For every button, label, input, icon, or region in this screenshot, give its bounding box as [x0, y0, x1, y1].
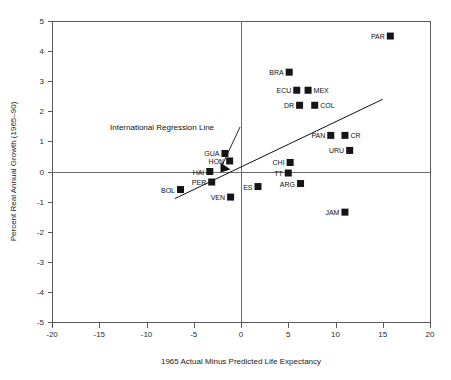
data-point-label-tt: TT [274, 170, 283, 177]
y-tick-label: -2 [37, 228, 45, 237]
y-tick-label: -4 [37, 288, 45, 297]
axis-ticks [48, 22, 431, 328]
data-point-label-dr: DR [284, 102, 294, 109]
data-point-marker [293, 87, 300, 94]
data-point-marker [305, 87, 312, 94]
x-tick-label: -20 [46, 330, 58, 339]
data-point-label-per: PER [192, 179, 206, 186]
data-point-marker [296, 102, 303, 109]
regression-line-annotation: International Regression Line [110, 123, 215, 132]
data-point-label-cr: CR [350, 132, 360, 139]
x-tick-label: 5 [286, 330, 291, 339]
x-tick-label: 20 [426, 330, 435, 339]
data-point-marker [206, 168, 213, 175]
data-point-marker [341, 132, 348, 139]
x-tick-label: -15 [93, 330, 105, 339]
data-point-marker [327, 132, 334, 139]
annotation-leader-arrow [220, 127, 240, 173]
data-point-marker [221, 150, 228, 157]
data-point-label-hon: HON [209, 158, 225, 165]
y-tick-label: 5 [40, 17, 45, 26]
y-tick-label: -3 [37, 258, 45, 267]
y-tick-label: 3 [40, 77, 45, 86]
data-point-label-par: PAR [371, 33, 385, 40]
x-axis-title: 1965 Actual Minus Predicted Life Expecta… [161, 357, 321, 366]
y-tick-label: 4 [40, 47, 45, 56]
data-point-marker [286, 69, 293, 76]
y-tick-label: 0 [40, 168, 45, 177]
data-point-marker [177, 186, 184, 193]
data-point-label-arg: ARG [280, 181, 295, 188]
y-tick-label: -1 [37, 198, 45, 207]
x-tick-label: 10 [331, 330, 340, 339]
data-point-label-bol: BOL [161, 187, 175, 194]
x-tick-label: -5 [190, 330, 198, 339]
data-point-marker [346, 147, 353, 154]
data-point-label-ven: VEN [211, 194, 225, 201]
zero-axis-lines [52, 21, 430, 322]
data-point-label-ecu: ECU [276, 87, 291, 94]
x-tick-label: 0 [239, 330, 244, 339]
y-tick-label: -5 [37, 318, 45, 327]
data-point-label-bra: BRA [269, 69, 284, 76]
x-tick-label: 15 [378, 330, 387, 339]
data-point-label-uru: URU [329, 147, 344, 154]
data-point-label-gua: GUA [204, 150, 220, 157]
data-point-marker [287, 159, 294, 166]
y-axis-title: Percent Real Annual Growth (1965–90) [9, 101, 18, 241]
chart-canvas: -20-15-10-505101520543210-1-2-3-4-5 PARB… [0, 0, 451, 380]
data-point-marker [208, 179, 215, 186]
data-point-label-col: COL [320, 102, 335, 109]
scatter-chart: -20-15-10-505101520543210-1-2-3-4-5 PARB… [0, 0, 451, 380]
data-point-marker [297, 180, 304, 187]
data-point-marker [227, 194, 234, 201]
data-point-label-pan: PAN [311, 132, 325, 139]
axis-tick-labels: -20-15-10-505101520543210-1-2-3-4-5 [37, 17, 435, 339]
data-point-marker [285, 170, 292, 177]
data-point-label-jam: JAM [325, 209, 339, 216]
data-point-marker [387, 33, 394, 40]
data-point-marker [255, 183, 262, 190]
data-point-label-es: ES [243, 184, 253, 191]
data-point-label-chi: CHI [273, 159, 285, 166]
y-tick-label: 2 [40, 107, 45, 116]
data-point-marker [226, 157, 233, 164]
data-point-marker [311, 102, 318, 109]
y-tick-label: 1 [40, 137, 45, 146]
data-point-marker [341, 209, 348, 216]
x-tick-label: -10 [141, 330, 153, 339]
data-point-label-mex: MEX [314, 87, 330, 94]
data-point-label-hai: HAI [193, 169, 205, 176]
